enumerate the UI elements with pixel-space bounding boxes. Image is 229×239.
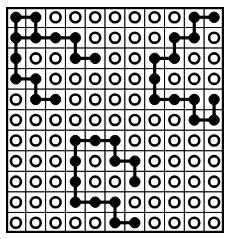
node-empty bbox=[209, 156, 219, 166]
node-filled bbox=[11, 33, 21, 43]
node-empty bbox=[150, 177, 160, 187]
node-empty bbox=[169, 156, 179, 166]
node-empty bbox=[150, 136, 160, 146]
node-empty bbox=[51, 156, 61, 166]
node-empty bbox=[110, 177, 120, 187]
node-empty bbox=[90, 33, 100, 43]
node-empty bbox=[130, 74, 140, 84]
node-empty bbox=[51, 12, 61, 22]
node-empty bbox=[150, 12, 160, 22]
node-empty bbox=[11, 197, 21, 207]
node-filled bbox=[209, 94, 219, 104]
node-empty bbox=[70, 94, 80, 104]
node-filled bbox=[169, 33, 179, 43]
node-filled bbox=[130, 176, 140, 186]
node-empty bbox=[110, 53, 120, 63]
node-empty bbox=[110, 115, 120, 125]
node-filled bbox=[90, 197, 100, 207]
node-filled bbox=[70, 197, 80, 207]
node-filled bbox=[149, 94, 159, 104]
node-empty bbox=[90, 74, 100, 84]
node-empty bbox=[31, 197, 41, 207]
node-empty bbox=[209, 177, 219, 187]
node-empty bbox=[110, 94, 120, 104]
node-empty bbox=[31, 136, 41, 146]
node-empty bbox=[169, 74, 179, 84]
node-empty bbox=[130, 12, 140, 22]
node-empty bbox=[31, 115, 41, 125]
node-filled bbox=[209, 115, 219, 125]
node-empty bbox=[169, 115, 179, 125]
node-filled bbox=[50, 94, 60, 104]
node-empty bbox=[169, 218, 179, 228]
node-filled bbox=[189, 115, 199, 125]
node-empty bbox=[110, 74, 120, 84]
figure-canvas bbox=[0, 0, 229, 239]
node-filled bbox=[70, 33, 80, 43]
node-empty bbox=[51, 136, 61, 146]
node-empty bbox=[11, 177, 21, 187]
node-filled bbox=[149, 53, 159, 63]
node-empty bbox=[110, 33, 120, 43]
node-empty bbox=[70, 12, 80, 22]
node-empty bbox=[110, 12, 120, 22]
node-empty bbox=[169, 177, 179, 187]
node-empty bbox=[150, 33, 160, 43]
node-filled bbox=[110, 156, 120, 166]
node-empty bbox=[11, 156, 21, 166]
node-empty bbox=[189, 156, 199, 166]
node-filled bbox=[70, 156, 80, 166]
node-filled bbox=[70, 53, 80, 63]
lattice-grid bbox=[6, 7, 224, 233]
node-empty bbox=[90, 94, 100, 104]
node-filled bbox=[11, 53, 21, 63]
node-empty bbox=[51, 115, 61, 125]
node-empty bbox=[51, 218, 61, 228]
node-filled bbox=[110, 218, 120, 228]
node-empty bbox=[90, 156, 100, 166]
node-filled bbox=[70, 135, 80, 145]
node-empty bbox=[11, 115, 21, 125]
node-empty bbox=[90, 218, 100, 228]
node-empty bbox=[209, 74, 219, 84]
node-empty bbox=[209, 53, 219, 63]
node-filled bbox=[110, 135, 120, 145]
node-empty bbox=[189, 136, 199, 146]
node-filled bbox=[70, 176, 80, 186]
node-filled bbox=[149, 74, 159, 84]
node-empty bbox=[11, 218, 21, 228]
node-empty bbox=[130, 94, 140, 104]
node-filled bbox=[31, 33, 41, 43]
lattice-svg bbox=[6, 7, 224, 233]
node-filled bbox=[90, 135, 100, 145]
node-empty bbox=[150, 156, 160, 166]
node-empty bbox=[70, 218, 80, 228]
node-empty bbox=[209, 136, 219, 146]
node-empty bbox=[130, 197, 140, 207]
node-empty bbox=[189, 197, 199, 207]
node-empty bbox=[130, 33, 140, 43]
node-filled bbox=[209, 12, 219, 22]
node-empty bbox=[90, 12, 100, 22]
node-empty bbox=[130, 136, 140, 146]
node-filled bbox=[130, 156, 140, 166]
node-filled bbox=[31, 74, 41, 84]
node-empty bbox=[51, 74, 61, 84]
node-filled bbox=[31, 94, 41, 104]
node-empty bbox=[90, 177, 100, 187]
node-filled bbox=[31, 12, 41, 22]
node-empty bbox=[150, 115, 160, 125]
node-empty bbox=[51, 197, 61, 207]
node-empty bbox=[31, 177, 41, 187]
node-empty bbox=[11, 94, 21, 104]
node-empty bbox=[31, 53, 41, 63]
node-empty bbox=[51, 53, 61, 63]
node-empty bbox=[189, 74, 199, 84]
node-filled bbox=[50, 33, 60, 43]
node-filled bbox=[11, 12, 21, 22]
node-empty bbox=[51, 177, 61, 187]
node-empty bbox=[150, 218, 160, 228]
node-filled bbox=[11, 74, 21, 84]
node-filled bbox=[189, 33, 199, 43]
node-filled bbox=[189, 94, 199, 104]
